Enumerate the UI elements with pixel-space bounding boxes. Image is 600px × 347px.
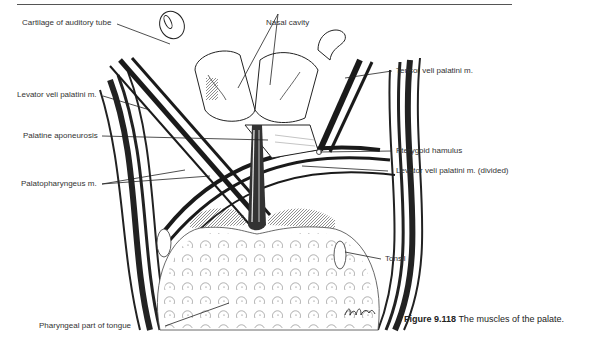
label-cartilage-auditory-tube: Cartilage of auditory tube	[22, 18, 111, 28]
label-pharyngeal-part-tongue: Pharyngeal part of tongue	[39, 321, 131, 331]
label-pterygoid-hamulus: Pterygoid hamulus	[396, 146, 462, 156]
palate-illustration	[0, 0, 600, 347]
tongue	[157, 227, 379, 330]
label-tonsil: Tonsil	[385, 254, 405, 264]
figure-caption: Figure 9.118 The muscles of the palate.	[404, 314, 564, 324]
label-palatopharyngeus: Palatopharyngeus m.	[21, 179, 97, 189]
auditory-tube-cartilage-left	[155, 7, 189, 43]
label-levator-veli-palatini: Levator veli palatini m.	[17, 90, 97, 100]
hatch-right	[268, 208, 335, 228]
label-tensor-veli-palatini: Tensor veli palatini m.	[396, 66, 473, 76]
tonsil-right	[334, 241, 346, 269]
label-levator-veli-palatini-divided: Levator veli palatini m. (divided)	[396, 166, 509, 176]
figure-caption-text: The muscles of the palate.	[458, 314, 564, 324]
figure-number: Figure 9.118	[404, 314, 456, 324]
label-palatine-aponeurosis: Palatine aponeurosis	[23, 131, 98, 141]
auditory-tube-cartilage-right	[318, 30, 345, 60]
tonsil-left	[157, 229, 171, 257]
nasal-cavity	[195, 51, 318, 123]
label-nasal-cavity: Nasal cavity	[266, 18, 309, 28]
